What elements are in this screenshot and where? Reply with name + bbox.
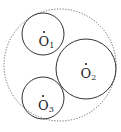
label-o1: O1 <box>39 34 55 50</box>
label-o3: O3 <box>38 98 54 114</box>
center-dot-o1 <box>43 31 45 33</box>
center-dot-o3 <box>42 95 44 97</box>
circles-diagram: O1 O2 O3 <box>0 0 121 132</box>
outer-dotted-circle <box>4 9 116 121</box>
center-dot-o2 <box>85 63 87 65</box>
label-o2: O2 <box>81 66 97 82</box>
